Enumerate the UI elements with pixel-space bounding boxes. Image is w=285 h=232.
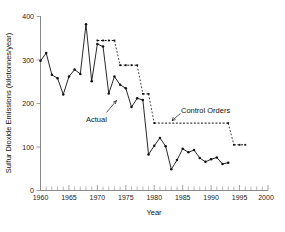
y-tick-label-0: 0 [30, 187, 34, 194]
y-axis-ticks [37, 17, 41, 191]
series-actual [39, 23, 229, 170]
x-tick-label-1970: 1970 [90, 194, 106, 201]
x-axis-tick-labels: 1960 1965 1970 1975 1980 1985 1990 1995 … [33, 194, 274, 201]
y-tick-label-300: 300 [22, 57, 34, 64]
x-tick-label-1995: 1995 [232, 194, 248, 201]
annotation-actual-label: Actual [86, 115, 107, 124]
x-tick-label-1980: 1980 [146, 194, 162, 201]
y-axis-tick-labels: 0 100 200 300 400 [22, 13, 34, 194]
x-axis-title: Year [146, 208, 162, 217]
annotation-actual: Actual [86, 101, 117, 125]
chart-container: 0 100 200 300 400 [0, 0, 285, 232]
control-orders-markers [97, 40, 247, 146]
x-tick-label-1965: 1965 [61, 194, 77, 201]
y-tick-label-100: 100 [22, 144, 34, 151]
x-tick-label-1985: 1985 [175, 194, 191, 201]
actual-markers [39, 23, 229, 170]
x-tick-label-1975: 1975 [118, 194, 134, 201]
x-tick-label-1960: 1960 [33, 194, 49, 201]
sulfur-dioxide-emissions-chart: 0 100 200 300 400 [0, 0, 285, 232]
y-axis-title: Sulfur Dioxide Emissions (kilotonnes/yea… [4, 32, 13, 173]
x-tick-label-1990: 1990 [203, 194, 219, 201]
x-tick-label-2000: 2000 [258, 194, 274, 201]
annotation-control-orders-label: Control Orders [181, 106, 230, 115]
y-tick-label-400: 400 [22, 13, 34, 20]
y-tick-label-200: 200 [22, 100, 34, 107]
series-control-orders [97, 40, 247, 146]
annotation-control-orders: Control Orders [172, 106, 230, 121]
